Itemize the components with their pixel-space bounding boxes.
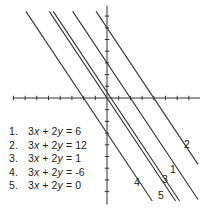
equation-item: 4. 3x + 2y = -6 [9,166,87,180]
line-label-3: 3 [162,173,168,185]
equation-number: 2. [9,139,28,153]
figure: 12345 1. 3x + 2y = 6 2. 3x + 2y = 12 3. … [0,0,208,208]
equation-text: 3x + 2y = 12 [28,139,87,153]
equation-number: 1. [9,125,28,139]
equation-item: 1. 3x + 2y = 6 [9,125,87,139]
equation-text: 3x + 2y = 6 [28,125,81,139]
equation-number: 5. [9,179,28,193]
line-label-1: 1 [170,163,176,175]
equation-number: 3. [9,152,28,166]
line-label-4: 4 [134,176,140,188]
equation-list: 1. 3x + 2y = 6 2. 3x + 2y = 12 3. 3x + 2… [9,125,87,193]
plotted-line-1 [73,11,198,199]
equation-text: 3x + 2y = 1 [28,152,81,166]
equation-text: 3x + 2y = 0 [28,179,81,193]
equation-item: 2. 3x + 2y = 12 [9,139,87,153]
equation-number: 4. [9,166,28,180]
line-label-2: 2 [184,138,190,150]
line-label-5: 5 [158,189,164,201]
equation-text: 3x + 2y = -6 [28,166,85,180]
equation-item: 5. 3x + 2y = 0 [9,179,87,193]
plotted-line-2 [96,11,198,164]
equation-item: 3. 3x + 2y = 1 [9,152,87,166]
